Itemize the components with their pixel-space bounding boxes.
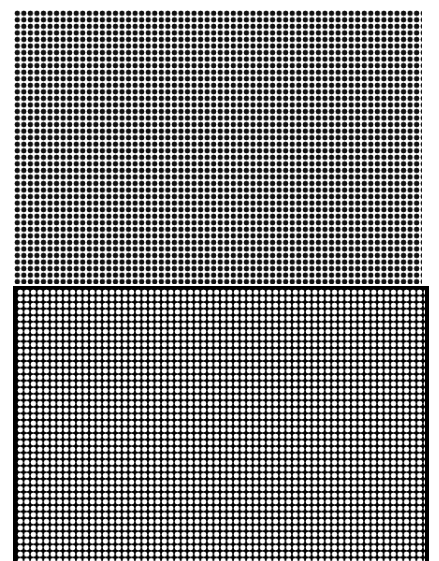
top-dot-grid [14,10,422,284]
bottom-dot-grid [17,289,425,561]
bottom-panel [13,286,429,561]
